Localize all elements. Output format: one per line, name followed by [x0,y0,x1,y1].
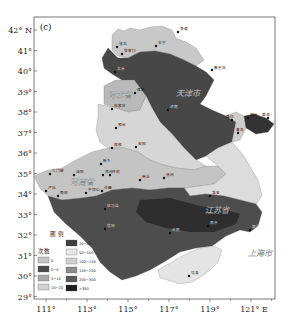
y-tick-label: 31° [18,252,32,261]
legend-swatch [38,284,49,290]
city-label: 济南 [170,104,178,109]
legend-swatch [66,285,77,291]
city-label: 新乡 [103,158,111,163]
y-tick-label: 42° N [8,26,32,35]
legend-swatch [38,257,49,263]
city-label: 北京 [117,66,125,71]
city-label: 南京 [210,220,218,225]
x-tick-label: 117° [159,305,178,314]
city-label: 平顶山 [88,187,100,192]
city-label: 屯溪 [191,270,199,275]
panel-label: (c) [40,22,51,32]
legend-swatch [38,266,49,272]
city-label: 开封 [112,169,120,174]
x-tick-label: 111° [36,305,55,314]
y-axis: 42° N 41° 40° 39° 38° 37° 36° 35° 34° 33… [8,26,37,302]
city-label: 安阳 [138,141,146,146]
legend-label: 150~200 [79,269,96,273]
city-label: 青岛 [236,127,244,132]
y-tick-label: 33° [18,211,32,220]
city-label: 张家口 [124,48,136,53]
x-axis: 111° 113° 115° 117° 119° 121° E [36,299,271,314]
city-label: 保定 [137,87,145,92]
y-tick-label: 41° [18,47,32,56]
legend-label: 100~150 [79,260,96,264]
x-tick-label: 115° [118,305,137,314]
province-label-shanghai: 上海市 [248,249,273,258]
city-label: 石家庄 [114,103,126,108]
legend-subtitle: 次数 [38,247,50,255]
y-tick-label: 38° [18,108,32,117]
city-label: 威海 [262,112,270,117]
province-label-jiangsu: 江苏省 [205,206,230,215]
province-label-tianjin: 天津市 [176,89,201,98]
legend-swatch [38,275,49,281]
legend-swatch [66,249,77,255]
y-tick-label: 34° [18,190,32,199]
city-label: 合肥 [172,227,180,232]
legend-swatch [66,267,77,273]
legend-title: 图 例 [50,230,64,238]
legend-swatch [66,240,77,246]
legend-swatch [66,258,77,264]
province-label-henan: 河南省 [70,178,95,187]
x-tick-label: 113° [77,305,96,314]
city-label: 南阳 [60,190,68,195]
legend-label: 5~10 [51,277,62,281]
city-label: 秦皇岛 [214,65,226,70]
y-tick-label: 36° [18,149,32,158]
city-label: 潍坊 [226,114,234,119]
y-tick-label: 29° [18,293,32,302]
city-label: 丰宁 [158,40,166,45]
city-label: 洛阳 [76,169,84,174]
city-label: 承德 [180,26,188,31]
city-label: 烟台 [250,112,258,117]
y-tick-label: 40° [18,67,32,76]
y-tick-label: 39° [18,88,32,97]
city-label: 商丘 [142,174,150,179]
city-label: 张北 [119,41,127,46]
y-tick-label: 32° [18,231,32,240]
city-label: 邯郸 [114,142,122,147]
legend-label: >300 [79,287,90,291]
y-tick-label: 30° [18,272,32,281]
y-tick-label: 37° [18,129,32,138]
city-label: 卢氏 [48,185,56,190]
precipitation-frequency-map: 河北省 河南省 江苏省 天津市 上海市 张北 张家口 丰宁 承德 秦皇岛 北京 … [0,0,290,321]
province-label-hebei: 河北省 [108,91,133,100]
legend-label: 200~300 [79,278,96,282]
city-label: 驻马店 [107,203,119,208]
city-label: 淮安 [212,190,220,195]
city-label: 信阳 [107,223,115,228]
city-label: 徐州 [166,172,174,177]
legend-label: 0~5 [51,268,59,272]
y-tick-label: 35° [18,170,32,179]
legend-label: 50~100 [79,251,94,255]
legend-swatch [66,276,77,282]
city-label: 许昌 [104,185,112,190]
x-tick-label: 119° [200,305,219,314]
city-label: 邢台 [118,122,126,127]
legend-label: 20~50 [79,242,92,246]
x-tick-label: 121° E [240,305,268,314]
city-label: 三门峡 [52,168,64,173]
city-label: 南通 [252,224,260,229]
legend-label: 10~20 [51,286,64,290]
